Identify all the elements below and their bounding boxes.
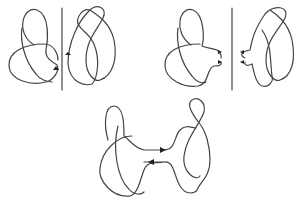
trefoil-knot-2 <box>165 9 222 86</box>
figure-eight-knot-1 <box>65 7 115 85</box>
figure-eight-knot-2 <box>240 8 294 87</box>
trefoil-knot-1 <box>9 9 59 83</box>
connected-sum-knot <box>100 99 210 196</box>
knot-connected-sum-diagram <box>0 0 297 205</box>
diagram-canvas <box>0 0 297 205</box>
